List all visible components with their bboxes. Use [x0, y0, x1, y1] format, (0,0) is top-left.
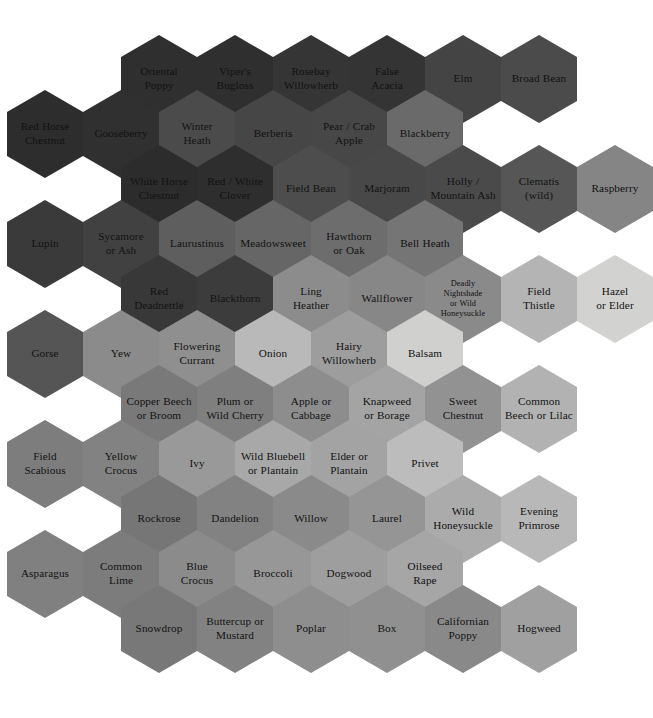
hex-cell-label: Marjoram	[353, 182, 421, 196]
hex-cell-label: Meadowsweet	[239, 237, 307, 251]
hex-cell-label: Onion	[239, 347, 307, 361]
hex-cell-label: Laurel	[353, 512, 421, 526]
hex-cell-label: Clematis(wild)	[505, 175, 573, 202]
hex-cell-label: Copper Beechor Broom	[125, 395, 193, 422]
hex-cell-label: Holly /Mountain Ash	[429, 175, 497, 202]
hex-cell-label: HairyWillowherb	[315, 340, 383, 367]
hex-cell-label: Hawthornor Oak	[315, 230, 383, 257]
hex-cell-label: EveningPrimrose	[505, 505, 573, 532]
hex-cell-label: Snowdrop	[125, 622, 193, 636]
hex-cell-red-horse-chestnut[interactable]: Red HorseChestnut	[7, 90, 83, 178]
hex-cell-label: Gorse	[11, 347, 79, 361]
hex-cell-label: Asparagus	[11, 567, 79, 581]
hex-cell-label: Laurustinus	[163, 237, 231, 251]
hex-cell-label: Lupin	[11, 237, 79, 251]
hex-cell-hogweed[interactable]: Hogweed	[501, 585, 577, 673]
hex-cell-label: Elder orPlantain	[315, 450, 383, 477]
hex-cell-lupin[interactable]: Lupin	[7, 200, 83, 288]
hex-cell-label: Hazelor Elder	[581, 285, 649, 312]
hex-cell-label: WinterHeath	[163, 120, 231, 147]
hex-cell-gorse[interactable]: Gorse	[7, 310, 83, 398]
hex-cell-broad-bean[interactable]: Broad Bean	[501, 35, 577, 123]
hex-cell-label: FieldScabious	[11, 450, 79, 477]
hex-cell-label: Apple orCabbage	[277, 395, 345, 422]
hex-cell-label: YellowCrocus	[87, 450, 155, 477]
hex-cell-clematis-wild[interactable]: Clematis(wild)	[501, 145, 577, 233]
hex-cell-label: Bell Heath	[391, 237, 459, 251]
hex-cell-label: OilseedRape	[391, 560, 459, 587]
hex-cell-label: Ivy	[163, 457, 231, 471]
hex-cell-label: CalifornianPoppy	[429, 615, 497, 642]
hex-cell-label: RedDeadnettle	[125, 285, 193, 312]
hex-cell-label: Elm	[429, 72, 497, 86]
hex-cell-label: OrientalPoppy	[125, 65, 193, 92]
hex-cell-label: FalseAcacia	[353, 65, 421, 92]
hex-cell-label: Rockrose	[125, 512, 193, 526]
hex-cell-label: Raspberry	[581, 182, 649, 196]
hex-cell-label: CommonBeech or Lilac	[505, 395, 573, 422]
hex-cell-evening-primrose[interactable]: EveningPrimrose	[501, 475, 577, 563]
hex-cell-raspberry[interactable]: Raspberry	[577, 145, 653, 233]
hex-cell-label: Wild Bluebellor Plantain	[239, 450, 307, 477]
hex-cell-label: Gooseberry	[87, 127, 155, 141]
hex-cell-hazel-or-elder[interactable]: Hazelor Elder	[577, 255, 653, 343]
hex-cell-asparagus[interactable]: Asparagus	[7, 530, 83, 618]
hex-cell-label: Wallflower	[353, 292, 421, 306]
hex-cell-label: Broccoli	[239, 567, 307, 581]
hex-cell-label: Berberis	[239, 127, 307, 141]
hex-cell-label: WildHoneysuckle	[429, 505, 497, 532]
hex-cell-label: Privet	[391, 457, 459, 471]
hex-cell-label: Box	[353, 622, 421, 636]
hex-cell-label: Buttercup orMustard	[201, 615, 269, 642]
hex-cell-label: Hogweed	[505, 622, 573, 636]
hex-cell-label: Yew	[87, 347, 155, 361]
hex-cell-label: Balsam	[391, 347, 459, 361]
hex-cell-label: DeadlyNightshadeor WildHoneysuckle	[429, 279, 497, 318]
hex-cell-field-scabious[interactable]: FieldScabious	[7, 420, 83, 508]
hex-cell-label: Dogwood	[315, 567, 383, 581]
hex-cell-label: Poplar	[277, 622, 345, 636]
hex-cell-label: Blackthorn	[201, 292, 269, 306]
hex-cell-label: Plum orWild Cherry	[201, 395, 269, 422]
hex-cell-field-thistle[interactable]: FieldThistle	[501, 255, 577, 343]
hex-cell-label: LingHeather	[277, 285, 345, 312]
hex-cell-label: BlueCrocus	[163, 560, 231, 587]
hex-cell-label: Red / WhiteClover	[201, 175, 269, 202]
hex-cell-label: Willow	[277, 512, 345, 526]
hex-cell-label: Viper'sBugloss	[201, 65, 269, 92]
hex-cell-label: Broad Bean	[505, 72, 573, 86]
hex-cell-label: SweetChestnut	[429, 395, 497, 422]
hex-cell-label: RosebayWillowherb	[277, 65, 345, 92]
hex-cell-label: FloweringCurrant	[163, 340, 231, 367]
hex-cell-common-beech-or-lilac[interactable]: CommonBeech or Lilac	[501, 365, 577, 453]
hex-cell-label: Red HorseChestnut	[11, 120, 79, 147]
hex-cell-label: White HorseChestnut	[125, 175, 193, 202]
hex-cell-label: Blackberry	[391, 127, 459, 141]
hex-cell-label: FieldThistle	[505, 285, 573, 312]
hex-cell-label: Dandelion	[201, 512, 269, 526]
hex-cell-label: CommonLime	[87, 560, 155, 587]
hex-cell-label: Pear / CrabApple	[315, 120, 383, 147]
hex-cell-label: Sycamoreor Ash	[87, 230, 155, 257]
hex-cell-label: Field Bean	[277, 182, 345, 196]
hex-cell-label: Knapweedor Borage	[353, 395, 421, 422]
